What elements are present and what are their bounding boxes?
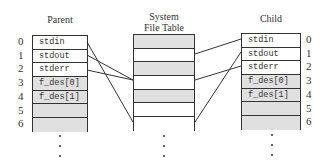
line-parent-stderr (87, 70, 133, 80)
line-child-stdin (195, 39, 241, 54)
line-child-stdout (195, 52, 241, 122)
line-child-stderr (195, 66, 241, 80)
line-parent-stdin (87, 42, 133, 122)
connection-lines (0, 0, 328, 162)
line-parent-stdout (87, 55, 133, 80)
